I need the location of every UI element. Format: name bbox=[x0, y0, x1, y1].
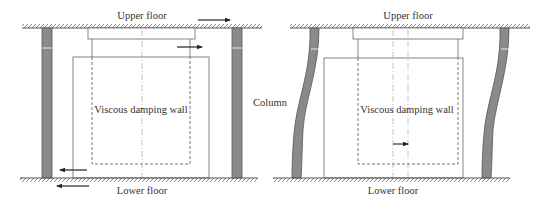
wall-outer-box bbox=[73, 57, 209, 178]
left-panel: Upper floor Viscous damping wall bbox=[20, 10, 262, 196]
upper-floor-label-right: Upper floor bbox=[383, 10, 433, 21]
lower-floor-slab bbox=[20, 178, 258, 182]
upper-floor-slab-right bbox=[290, 24, 530, 28]
upper-floor-slab bbox=[22, 24, 262, 28]
right-column-deformed bbox=[482, 28, 509, 178]
column-label: Column bbox=[253, 97, 288, 108]
lower-floor-label: Lower floor bbox=[117, 185, 168, 196]
wall-outer-box-right bbox=[324, 58, 463, 178]
right-panel: Upper floor Viscous damping wall Lower f… bbox=[273, 10, 530, 196]
upper-steel-plate bbox=[88, 28, 195, 39]
left-column bbox=[42, 28, 52, 178]
wall-label-right: Viscous damping wall bbox=[360, 104, 453, 115]
upper-floor-label: Upper floor bbox=[117, 10, 167, 21]
lower-floor-slab-right bbox=[273, 178, 510, 182]
left-column-deformed bbox=[292, 28, 319, 178]
wall-label: Viscous damping wall bbox=[94, 104, 187, 115]
right-column bbox=[232, 28, 242, 178]
damping-wall-diagram: Upper floor Viscous damping wall bbox=[0, 0, 546, 204]
lower-floor-label-right: Lower floor bbox=[368, 185, 419, 196]
